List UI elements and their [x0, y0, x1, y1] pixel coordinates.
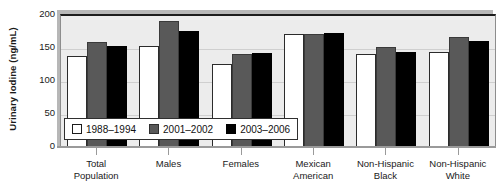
- x-axis-tick-mark: [96, 148, 97, 155]
- y-axis-tick-label: 100: [39, 74, 55, 86]
- bar[interactable]: [324, 33, 344, 149]
- x-axis-tick-mark: [313, 148, 314, 155]
- x-axis-tick-label-line: Population: [48, 170, 144, 182]
- y-axis-tick-label: 50: [44, 107, 55, 119]
- y-axis-tick: 50: [22, 107, 62, 119]
- y-axis-tick-label: 0: [50, 140, 55, 152]
- x-axis: TotalPopulationMalesFemalesMexicanAmeric…: [60, 148, 494, 186]
- y-axis-tick: 200: [22, 8, 62, 20]
- legend-item-label: 2003–2006: [240, 124, 290, 135]
- bar[interactable]: [304, 34, 324, 148]
- legend-item[interactable]: 2001–2002: [149, 124, 213, 135]
- white-square-icon: [72, 124, 82, 134]
- x-axis-tick: Non-HispanicWhite: [422, 148, 494, 186]
- bar-group: [350, 16, 422, 148]
- legend-item-label: 2001–2002: [163, 124, 213, 135]
- y-axis-tick: 150: [22, 41, 62, 53]
- x-axis-tick-label-line: Non-Hispanic: [410, 158, 498, 170]
- bar[interactable]: [356, 54, 376, 148]
- y-axis-tick-label: 150: [39, 41, 55, 53]
- x-axis-tick-label-line: White: [410, 170, 498, 182]
- y-axis-tick-label: 200: [39, 8, 55, 20]
- bar[interactable]: [449, 37, 469, 148]
- y-axis-title: Urinary Iodine (ng/mL): [7, 5, 21, 153]
- x-axis-tick-mark: [458, 148, 459, 155]
- x-axis-tick-label: Non-HispanicWhite: [410, 158, 498, 181]
- bar[interactable]: [469, 41, 489, 148]
- bar-group: [423, 16, 495, 148]
- urinary-iodine-bar-chart: Urinary Iodine (ng/mL) 050100150200 Tota…: [0, 0, 498, 186]
- x-axis-tick-mark: [385, 148, 386, 155]
- y-axis: 050100150200: [22, 8, 62, 153]
- bar[interactable]: [429, 52, 449, 148]
- y-axis-tick: 100: [22, 74, 62, 86]
- black-square-icon: [226, 124, 236, 134]
- bar-group-bars: [350, 16, 422, 148]
- legend-item-label: 1988–1994: [86, 124, 136, 135]
- legend-item[interactable]: 2003–2006: [226, 124, 290, 135]
- y-axis-tick: 0: [22, 140, 62, 152]
- gray-square-icon: [149, 124, 159, 134]
- legend: 1988–19942001–20022003–2006: [64, 118, 298, 140]
- legend-item[interactable]: 1988–1994: [72, 124, 136, 135]
- bar-group-bars: [423, 16, 495, 148]
- bar[interactable]: [376, 47, 396, 148]
- bar[interactable]: [396, 52, 416, 148]
- x-axis-tick-mark: [241, 148, 242, 155]
- x-axis-tick-mark: [168, 148, 169, 155]
